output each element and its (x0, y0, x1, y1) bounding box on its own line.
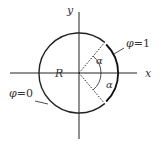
leader-phi-0 (35, 101, 48, 104)
angle-arc-lower (93, 73, 101, 90)
radius-label: R (54, 67, 63, 80)
phi-value-left: =0 (17, 87, 33, 100)
angle-label-lower: α (106, 79, 113, 90)
boundary-label-phi-1: φ=1 (126, 37, 150, 50)
angle-label-upper: α (96, 55, 103, 66)
x-axis-label: x (145, 67, 152, 80)
boundary-label-phi-0: φ=0 (9, 87, 33, 100)
leader-phi-1 (114, 48, 124, 54)
diagram-canvas: y x R α α φ=1 φ=0 (0, 0, 159, 147)
y-axis-label: y (66, 4, 74, 17)
phi-value-right: =1 (134, 37, 150, 50)
